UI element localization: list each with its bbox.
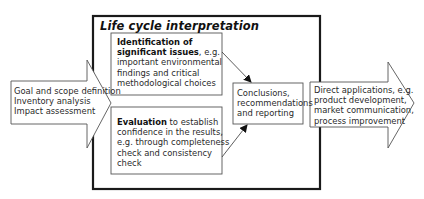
output-line: product development, (314, 95, 414, 105)
evaluation-line: confidence in the results, (117, 127, 229, 137)
output-arrow-text: Direct applications, e.g. product develo… (314, 85, 414, 126)
identification-text: , e.g. (199, 47, 220, 57)
evaluation-line: e.g. through completeness (117, 137, 229, 147)
identification-line: important environmental (117, 57, 222, 67)
input-line: Inventory analysis (14, 96, 121, 106)
frame-title: Life cycle interpretation (100, 19, 259, 33)
output-line: market communication, (314, 105, 414, 115)
output-line: Direct applications, e.g. (314, 85, 414, 95)
conclusions-line: recommendations (237, 98, 313, 108)
conclusions-box-text: Conclusions, recommendations and reporti… (237, 88, 313, 119)
identification-box-text: Identification of significant issues, e.… (117, 37, 222, 88)
evaluation-box-text: Evaluation to establish confidence in th… (117, 117, 229, 168)
output-line: process improvement (314, 116, 414, 126)
evaluation-heading: Evaluation (117, 117, 167, 127)
evaluation-text: to establish (167, 117, 218, 127)
input-arrow-text: Goal and scope definition Inventory anal… (14, 86, 121, 117)
input-line: Goal and scope definition (14, 86, 121, 96)
input-line: Impact assessment (14, 106, 121, 116)
identification-line: findings and critical (117, 68, 222, 78)
identification-heading: significant issues (117, 47, 199, 57)
evaluation-line: check and consistency (117, 148, 229, 158)
conclusions-line: Conclusions, (237, 88, 313, 98)
conclusions-line: and reporting (237, 108, 313, 118)
identification-line: methodological choices (117, 78, 222, 88)
evaluation-line: check (117, 158, 229, 168)
identification-heading: Identification of (117, 37, 192, 47)
